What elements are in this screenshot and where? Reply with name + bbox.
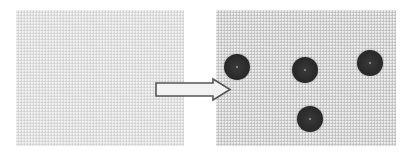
dot-3	[357, 50, 383, 76]
dot-center-mark	[304, 69, 306, 71]
dot-center-mark	[309, 118, 311, 120]
dot-center-mark	[236, 66, 238, 68]
dot-1	[224, 54, 250, 80]
dot-4	[297, 106, 323, 132]
before-panel	[16, 10, 184, 146]
dot-2	[292, 57, 318, 83]
dot-center-mark	[369, 62, 371, 64]
